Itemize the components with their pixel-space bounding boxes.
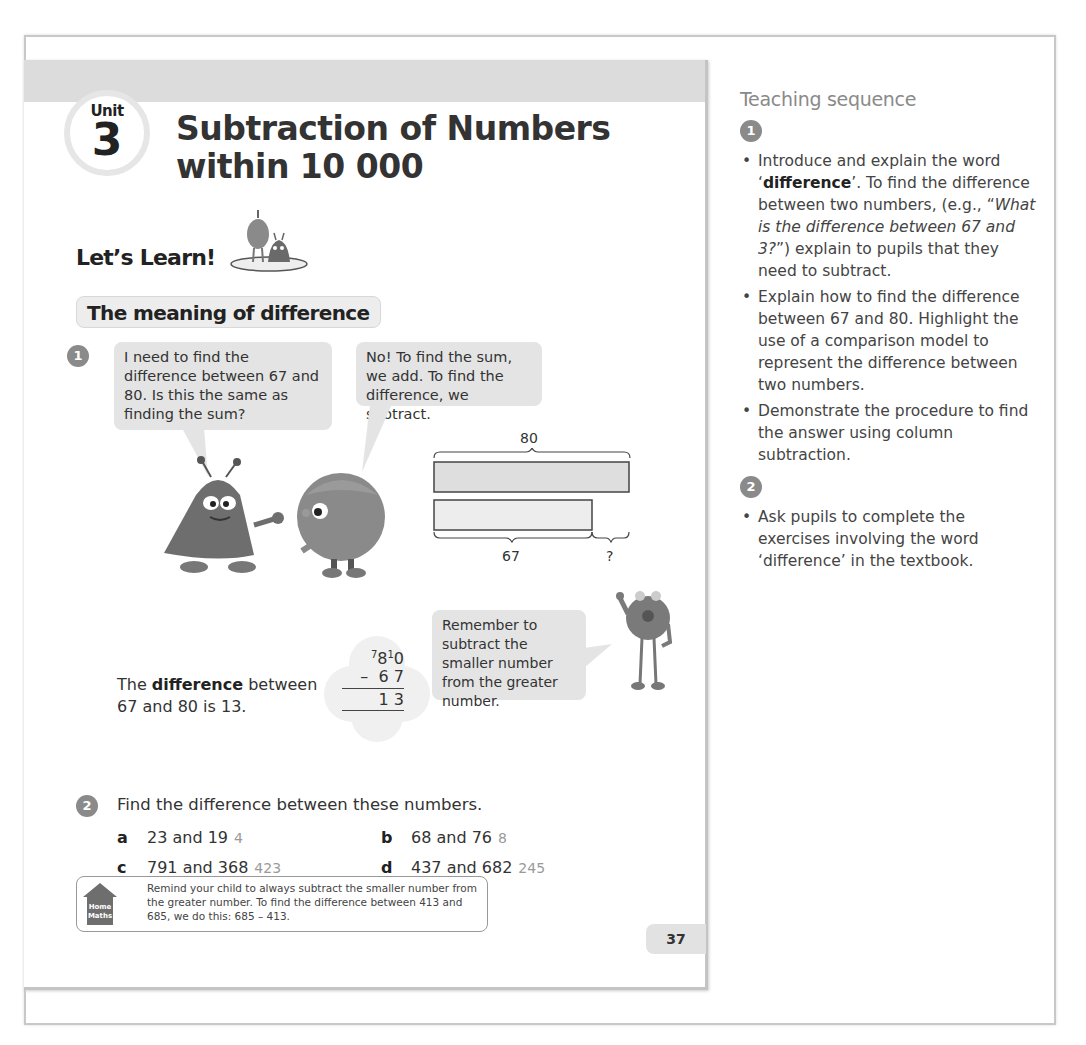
statement-bold-term: difference xyxy=(152,675,243,694)
teaching-sequence-panel: Teaching sequence 1 Introduce and explai… xyxy=(740,88,1040,576)
exercise-answer: 4 xyxy=(234,830,243,846)
exercise-question: 791 and 368 xyxy=(147,858,248,877)
section-title: The meaning of difference xyxy=(76,296,381,328)
exercise-item-d: d437 and 682245 xyxy=(381,858,545,877)
exercise-letter: c xyxy=(117,858,147,877)
exercise-letter: b xyxy=(381,828,411,847)
result-tens: 1 xyxy=(379,690,389,709)
exercise-question: 437 and 682 xyxy=(411,858,512,877)
teaching-step-1-list: Introduce and explain the word ‘differen… xyxy=(740,150,1040,466)
step-2-marker: 2 xyxy=(76,795,98,817)
exercise-answer: 423 xyxy=(254,860,281,876)
bar-model-diagram xyxy=(432,448,632,558)
exercise-item-c: c791 and 368423 xyxy=(117,858,281,877)
monster-pair-illustration xyxy=(224,206,314,272)
difference-statement: The difference between 67 and 80 is 13. xyxy=(117,674,317,718)
exercise-heading: Find the difference between these number… xyxy=(117,795,482,814)
exercise-answer: 8 xyxy=(498,830,507,846)
house-icon: Home Maths xyxy=(83,883,117,925)
comparison-bar-model: 80 67 ? xyxy=(432,430,632,570)
teaching-item: Explain how to find the difference betwe… xyxy=(740,286,1040,396)
unit-badge: Unit 3 xyxy=(64,90,150,176)
statement-line-2: 67 and 80 is 13. xyxy=(117,696,317,718)
unit-number: 3 xyxy=(70,120,144,160)
teaching-item: Introduce and explain the word ‘differen… xyxy=(740,150,1040,282)
sub-ones: 7 xyxy=(394,667,404,686)
lets-learn-heading: Let’s Learn! xyxy=(76,245,215,270)
monsters-illustration xyxy=(156,455,386,580)
standing-monster-illustration xyxy=(614,584,674,694)
svg-text:Maths: Maths xyxy=(88,912,112,920)
statement-suffix: between xyxy=(243,675,317,694)
textbook-page: Unit 3 Subtraction of Numbers within 10 … xyxy=(24,60,708,990)
bubble-tail xyxy=(584,644,614,674)
minus-sign: – xyxy=(360,667,368,686)
svg-text:Home: Home xyxy=(89,903,112,911)
speech-bubble-answer: No! To find the sum, we add. To find the… xyxy=(356,342,542,406)
bar-part-label: 67 xyxy=(502,548,520,564)
step-1-marker: 1 xyxy=(67,345,89,367)
teaching-step-2-marker: 2 xyxy=(740,476,762,498)
home-maths-box: Home Maths Remind your child to always s… xyxy=(76,876,488,932)
statement-prefix: The xyxy=(117,675,152,694)
home-maths-text: Remind your child to always subtract the… xyxy=(147,881,483,923)
exercise-answer: 245 xyxy=(518,860,545,876)
bar-unknown-label: ? xyxy=(606,548,613,564)
teaching-step-1-marker: 1 xyxy=(740,120,762,142)
exercise-item-a: a23 and 194 xyxy=(117,828,243,847)
exercise-item-b: b68 and 768 xyxy=(381,828,507,847)
page-number: 37 xyxy=(646,924,706,954)
exercise-letter: d xyxy=(381,858,411,877)
teaching-item: Ask pupils to complete the exercises inv… xyxy=(740,506,1040,572)
title-line-2: within 10 000 xyxy=(176,148,610,186)
bar-total-label: 80 xyxy=(520,430,538,446)
speech-bubble-reminder: Remember to subtract the smaller number … xyxy=(432,610,586,700)
sub-tens: 6 xyxy=(379,667,389,686)
result-ones: 3 xyxy=(394,690,404,709)
exercise-letter: a xyxy=(117,828,147,847)
teaching-sequence-title: Teaching sequence xyxy=(740,88,1040,110)
exercise-question: 23 and 19 xyxy=(147,828,228,847)
title-line-1: Subtraction of Numbers xyxy=(176,110,610,148)
page-title: Subtraction of Numbers within 10 000 xyxy=(176,110,610,186)
exercise-question: 68 and 76 xyxy=(411,828,492,847)
column-subtraction: 7810 – 6 7 1 3 xyxy=(342,644,404,712)
speech-bubble-question: I need to find the difference between 67… xyxy=(114,342,332,430)
teaching-item: Demonstrate the procedure to find the an… xyxy=(740,400,1040,466)
teaching-step-2-list: Ask pupils to complete the exercises inv… xyxy=(740,506,1040,572)
